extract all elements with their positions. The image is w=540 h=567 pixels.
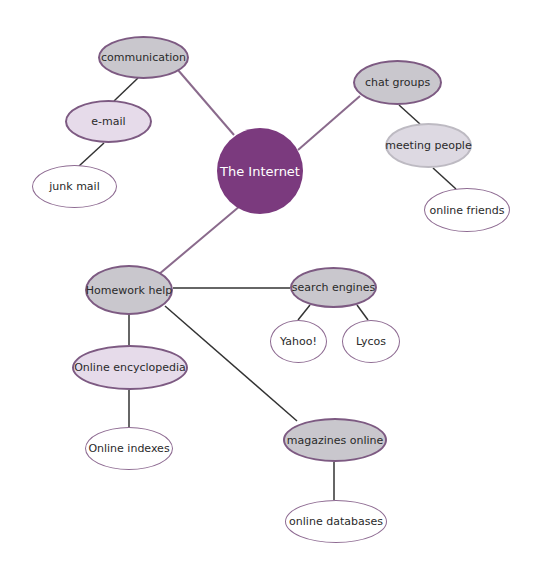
- edge-chat-groups-meeting-people: [399, 105, 420, 124]
- node-online-friends[interactable]: online friends: [424, 188, 510, 232]
- node-label: Online encyclopedia: [74, 361, 186, 374]
- node-label: search engines: [292, 281, 375, 294]
- node-label: chat groups: [365, 76, 430, 89]
- edge-search-yahoo: [298, 305, 310, 320]
- node-email[interactable]: e-mail: [65, 100, 152, 143]
- node-label: online databases: [289, 515, 383, 528]
- node-yahoo[interactable]: Yahoo!: [270, 320, 327, 363]
- node-label: junk mail: [49, 180, 99, 193]
- node-search-engines[interactable]: search engines: [290, 267, 377, 308]
- edge-meeting-people-online-friends: [433, 168, 456, 189]
- node-lycos[interactable]: Lycos: [342, 320, 400, 363]
- connector-lines: [0, 0, 540, 567]
- node-junk-mail[interactable]: junk mail: [32, 165, 117, 208]
- node-label: online friends: [430, 204, 505, 217]
- edge-internet-chat-groups: [298, 96, 360, 150]
- concept-map: The Internet communication e-mail junk m…: [0, 0, 540, 567]
- edge-internet-communication: [178, 70, 234, 135]
- central-node-the-internet[interactable]: The Internet: [217, 128, 303, 214]
- edge-email-junk-mail: [79, 143, 104, 166]
- edge-search-lycos: [357, 305, 368, 320]
- node-label: Online indexes: [88, 442, 169, 455]
- node-homework-help[interactable]: Homework help: [85, 265, 173, 315]
- node-label: The Internet: [220, 164, 300, 179]
- node-online-databases[interactable]: online databases: [285, 500, 387, 543]
- node-meeting-people[interactable]: meeting people: [385, 123, 472, 168]
- edge-internet-homework-help: [158, 206, 240, 275]
- node-label: Yahoo!: [280, 335, 317, 348]
- node-online-encyclopedia[interactable]: Online encyclopedia: [72, 345, 188, 390]
- node-label: Homework help: [86, 284, 172, 297]
- edge-communication-email: [114, 78, 138, 101]
- node-label: magazines online: [287, 434, 384, 447]
- node-label: Lycos: [356, 335, 386, 348]
- node-online-indexes[interactable]: Online indexes: [85, 427, 173, 470]
- node-label: e-mail: [91, 115, 125, 128]
- node-communication[interactable]: communication: [98, 36, 189, 79]
- node-magazines-online[interactable]: magazines online: [283, 418, 387, 462]
- node-label: communication: [101, 51, 186, 64]
- node-label: meeting people: [385, 139, 471, 152]
- node-chat-groups[interactable]: chat groups: [353, 60, 442, 105]
